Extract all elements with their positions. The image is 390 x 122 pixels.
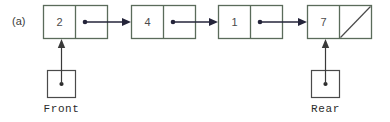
node-2-value: 1	[231, 16, 237, 28]
figure-canvas: (a) 2 4 1	[0, 0, 390, 122]
node-1-next-arrow-head	[209, 18, 218, 26]
node-0-value: 2	[56, 16, 62, 28]
pointer-rear: Rear	[311, 39, 340, 115]
pointer-front: Front	[43, 39, 79, 115]
node-2-next-arrow-head	[298, 18, 307, 26]
linked-list-diagram: 2 4 1 7	[0, 0, 390, 122]
node-0: 2	[44, 6, 132, 39]
node-3: 7	[308, 6, 372, 39]
front-pointer-label: Front	[43, 103, 79, 115]
front-pointer-arrow-head	[58, 39, 65, 48]
panel-label: (a)	[12, 15, 25, 27]
rear-pointer-arrow-head	[322, 39, 329, 48]
node-1: 4	[132, 6, 219, 39]
node-1-value: 4	[144, 16, 150, 28]
node-0-next-arrow-head	[122, 18, 131, 26]
rear-pointer-label: Rear	[311, 103, 340, 115]
node-2: 1	[219, 6, 308, 39]
node-3-value: 7	[320, 16, 326, 28]
